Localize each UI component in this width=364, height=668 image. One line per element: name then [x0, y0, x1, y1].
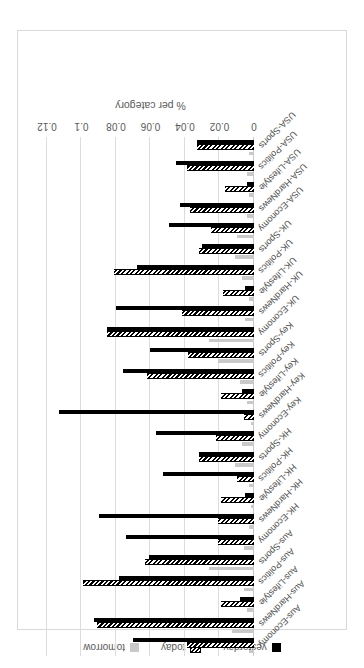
- bar-today: [182, 310, 254, 316]
- x-tick-label: 0.06: [141, 121, 160, 132]
- bar-today: [223, 290, 254, 296]
- category-axis-labels: Aus-EconomyAus-HardNewsAus-LifestyleAus-…: [256, 137, 364, 656]
- bar-tomorrow: [240, 380, 254, 384]
- rotated-figure-container: yesterdaytodaytomorrow 00.020.040.060.08…: [0, 0, 364, 668]
- bar-tomorrow: [247, 172, 254, 176]
- x-axis-title: % per category: [47, 100, 254, 112]
- bar-today: [237, 476, 254, 482]
- bar-group: [47, 137, 254, 158]
- bar-tomorrow: [232, 629, 254, 633]
- bar-today: [218, 539, 254, 545]
- bar-group: [47, 386, 254, 407]
- x-tick-label: 0: [251, 121, 257, 132]
- bar-group: [47, 635, 254, 656]
- bar-group: [47, 345, 254, 366]
- bar-group: [47, 448, 254, 469]
- bar-tomorrow: [249, 297, 254, 301]
- bar-tomorrow: [237, 235, 254, 239]
- bar-today: [147, 373, 254, 379]
- bar-today: [221, 393, 254, 399]
- bar-tomorrow: [209, 339, 254, 343]
- bar-today: [188, 352, 254, 358]
- bar-group: [47, 158, 254, 179]
- bar-group: [47, 428, 254, 449]
- x-tick-label: 0.08: [106, 121, 125, 132]
- bar-tomorrow: [218, 359, 254, 363]
- bar-group: [47, 365, 254, 386]
- bar-group: [47, 262, 254, 283]
- bar-group: [47, 511, 254, 532]
- bar-group: [47, 407, 254, 428]
- bar-today: [244, 414, 254, 420]
- bar-today: [97, 622, 254, 628]
- bar-tomorrow: [247, 608, 254, 612]
- bar-group: [47, 241, 254, 262]
- bar-tomorrow: [249, 484, 254, 488]
- bar-today: [216, 435, 254, 441]
- bar-yesterday: [59, 410, 254, 414]
- bar-today: [190, 207, 254, 213]
- bar-group: [47, 303, 254, 324]
- bar-today: [199, 456, 254, 462]
- plot-area: [47, 137, 254, 656]
- bar-group: [47, 199, 254, 220]
- x-tick-label: 0.12: [37, 121, 56, 132]
- bar-group: [47, 220, 254, 241]
- bar-tomorrow: [249, 152, 254, 156]
- bar-tomorrow: [251, 505, 254, 509]
- bar-group: [47, 573, 254, 594]
- bar-tomorrow: [244, 588, 254, 592]
- bar-group: [47, 324, 254, 345]
- bar-today: [221, 601, 254, 607]
- bar-group: [47, 282, 254, 303]
- bar-tomorrow: [209, 567, 254, 571]
- bar-tomorrow: [249, 650, 254, 654]
- bar-today: [221, 497, 254, 503]
- x-axis-tick-labels: 00.020.040.060.080.10.12: [47, 116, 254, 132]
- bar-today: [145, 559, 254, 565]
- bar-tomorrow: [247, 214, 254, 218]
- bar-today: [218, 518, 254, 524]
- bar-tomorrow: [249, 525, 254, 529]
- bar-today: [187, 165, 254, 171]
- bar-tomorrow: [247, 401, 254, 405]
- bar-today: [211, 227, 254, 233]
- bar-group: [47, 552, 254, 573]
- bar-group: [47, 615, 254, 636]
- bar-group: [47, 490, 254, 511]
- bar-tomorrow: [245, 318, 254, 322]
- bar-tomorrow: [244, 546, 254, 550]
- bar-group: [47, 531, 254, 552]
- bar-today: [107, 331, 254, 337]
- bar-tomorrow: [249, 193, 254, 197]
- bar-today: [197, 144, 254, 150]
- bar-today: [199, 248, 254, 254]
- bar-group: [47, 179, 254, 200]
- bar-group: [47, 469, 254, 490]
- bar-today: [83, 580, 254, 586]
- bar-today: [225, 186, 254, 192]
- bar-today: [187, 643, 254, 649]
- bar-tomorrow: [251, 422, 254, 426]
- bar-tomorrow: [235, 255, 254, 259]
- bar-today: [114, 269, 254, 275]
- x-tick-label: 0.02: [210, 121, 229, 132]
- bar-tomorrow: [235, 463, 254, 467]
- x-tick-label: 0.04: [175, 121, 194, 132]
- bar-tomorrow: [242, 276, 254, 280]
- x-tick-label: 0.1: [75, 121, 89, 132]
- bar-group: [47, 594, 254, 615]
- bar-tomorrow: [242, 442, 254, 446]
- bar-chart-figure: yesterdaytodaytomorrow 00.020.040.060.08…: [0, 0, 364, 668]
